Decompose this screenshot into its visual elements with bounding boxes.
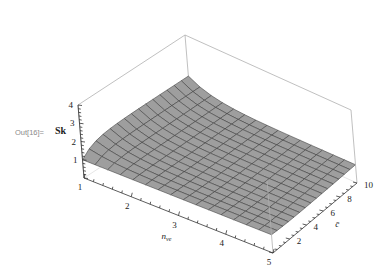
svg-text:3: 3: [172, 220, 177, 230]
svg-text:4: 4: [220, 238, 225, 248]
svg-text:3: 3: [70, 118, 75, 128]
surface-mesh: [83, 76, 356, 235]
svg-text:8: 8: [347, 194, 352, 204]
svg-text:2: 2: [125, 201, 130, 211]
svg-text:5: 5: [267, 257, 272, 267]
svg-text:4: 4: [314, 222, 319, 232]
surface-plot-3d[interactable]: 12345nve246810c̄1234: [0, 0, 376, 270]
svg-text:2: 2: [297, 236, 302, 246]
svg-text:c̄: c̄: [335, 219, 340, 229]
svg-text:1: 1: [78, 182, 83, 192]
x-axis-title: nve: [162, 231, 172, 242]
svg-text:2: 2: [72, 137, 77, 147]
svg-text:10: 10: [364, 180, 374, 190]
svg-text:1: 1: [73, 155, 78, 165]
svg-text:4: 4: [69, 100, 74, 110]
svg-text:6: 6: [330, 208, 335, 218]
